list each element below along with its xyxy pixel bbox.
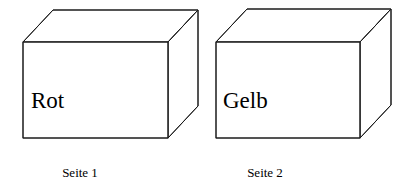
two-boxes-figure: Rot Gelb Seite 1 Seite 2 (0, 0, 411, 188)
box-1-top-face (23, 10, 198, 42)
box-2: Gelb (216, 9, 391, 138)
box-2-face-label: Gelb (223, 88, 268, 113)
box-1-caption: Seite 1 (62, 165, 98, 180)
box-1: Rot (23, 10, 198, 138)
box-2-caption: Seite 2 (247, 165, 283, 180)
figure-canvas: Rot Gelb Seite 1 Seite 2 (0, 0, 411, 188)
box-1-face-label: Rot (31, 88, 65, 113)
